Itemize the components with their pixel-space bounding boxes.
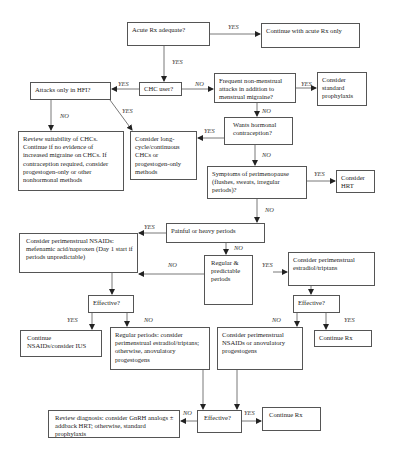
edge-label-yes: YES xyxy=(67,316,78,323)
edge-label-no: NO xyxy=(265,206,274,213)
node-frequent-nonmenstrual: Frequent non-menstrual attacks in additi… xyxy=(214,73,296,103)
edge-label-yes: YES xyxy=(344,316,355,323)
edge-label-yes: YES xyxy=(144,223,155,230)
node-nsaids-anovulatory: Consider perimenstrual NSAIDs or anovula… xyxy=(217,327,303,370)
edge-label-no: NO xyxy=(272,316,281,323)
node-nsaids: Consider perimenstrual NSAIDs: mefenamic… xyxy=(19,233,138,273)
edge-label-yes: YES xyxy=(122,107,133,114)
edge-label-yes: YES xyxy=(244,409,255,416)
node-effective-bottom: Effective? xyxy=(197,410,242,433)
node-effective-left: Effective? xyxy=(88,295,134,313)
node-continue-nsaids: Continue NSAIDs/consider IUS xyxy=(20,330,102,357)
node-perimenopause: Symptoms of perimenopause (flushes, swea… xyxy=(207,166,307,199)
edge-label-no: NO xyxy=(60,112,69,119)
edge-label-yes: YES xyxy=(118,80,129,87)
edge-label-no: NO xyxy=(144,316,153,323)
node-long-cycle-chc: Consider long-cycle/continuous CHCs or p… xyxy=(130,131,197,180)
edge-label-yes: YES xyxy=(301,80,312,87)
edge-label-yes: YES xyxy=(204,127,215,134)
edge-label-no: NO xyxy=(234,244,243,251)
edge-label-yes: YES xyxy=(314,170,325,177)
node-regular-periods-consider: Regular periods: consider perimenstrual … xyxy=(110,327,210,370)
node-standard-prophylaxis: Consider standard prophylaxis xyxy=(317,72,367,106)
node-attacks-only-hfi: Attacks only in HFI? xyxy=(30,82,111,100)
node-consider-hrt: Consider HRT xyxy=(336,170,375,193)
edge-label-yes: YES xyxy=(228,23,239,30)
node-review-chc-suitability: Review suitability of CHCs. Continue if … xyxy=(18,131,124,191)
edge-label-yes: YES xyxy=(172,58,183,65)
edge-label-no: NO xyxy=(195,80,204,87)
node-review-diagnosis: Review diagnosis: consider GnRH analogs … xyxy=(48,410,180,438)
node-effective-right: Effective? xyxy=(293,295,340,313)
node-acute-rx-adequate: Acute Rx adequate? xyxy=(127,22,210,46)
node-regular-predictable: Regular & predictable periods xyxy=(204,255,253,305)
node-continue-acute-rx: Continue with acute Rx only xyxy=(261,23,360,48)
edge-label-yes: YES xyxy=(262,261,273,268)
node-continue-rx-bottom: Continue Rx xyxy=(262,407,321,431)
node-chc-user: CHC user? xyxy=(139,82,182,96)
edge-label-no: NO xyxy=(262,107,271,114)
node-estradiol-triptans: Consider perimenstrual estradiol/triptan… xyxy=(288,252,375,286)
node-wants-hormonal: Wants hormonal contraception? xyxy=(224,117,293,145)
edge-label-no: NO xyxy=(168,261,177,268)
node-continue-rx-right: Continue Rx xyxy=(314,330,372,347)
node-painful-heavy: Painful or heavy periods xyxy=(166,223,265,243)
edge-label-no: NO xyxy=(183,409,192,416)
edge-label-no: NO xyxy=(262,151,271,158)
